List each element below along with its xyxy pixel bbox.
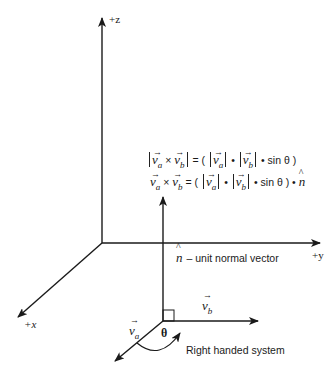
- rotation-caption: Right handed system: [186, 344, 285, 356]
- theta-label: θ: [161, 326, 167, 341]
- x-axis-label: +x: [24, 318, 36, 330]
- cross-symbol: ×: [165, 154, 171, 166]
- rotation-arc: [137, 333, 180, 351]
- vector-formula: →va × →vb = ( →va • →vb • sin θ ) • ^n: [150, 174, 305, 194]
- vector-b-symbol: →vb: [172, 175, 182, 194]
- abs-bar: [149, 152, 150, 167]
- y-axis-label: +y: [312, 249, 324, 261]
- vector-b-symbol: →vb: [236, 175, 246, 194]
- normal-unit-symbol: ^n: [176, 250, 183, 266]
- cross-symbol: ×: [163, 176, 169, 188]
- normal-unit-symbol: ^n: [299, 175, 306, 189]
- vector-a-symbol: →va: [206, 175, 216, 194]
- sin-theta: sin θ: [268, 154, 290, 166]
- magnitude-formula: →va × →vb = ( →va • →vb • sin θ ): [147, 152, 296, 172]
- normal-description: – unit normal vector: [187, 252, 279, 264]
- vector-b-label: →vb: [202, 296, 212, 316]
- abs-bar: [187, 152, 188, 167]
- sin-theta: sin θ: [261, 176, 283, 188]
- vector-a-symbol: →va: [150, 175, 160, 194]
- normal-vector-label: ^n – unit normal vector: [176, 248, 279, 266]
- z-axis-label: +z: [109, 13, 120, 25]
- x-axis: [18, 243, 102, 317]
- vector-a-label: →va: [129, 321, 139, 341]
- cross-product-diagram: +z +y +x →va × →vb = ( →va • →vb • sin θ…: [0, 0, 336, 379]
- right-angle-marker: [163, 310, 174, 321]
